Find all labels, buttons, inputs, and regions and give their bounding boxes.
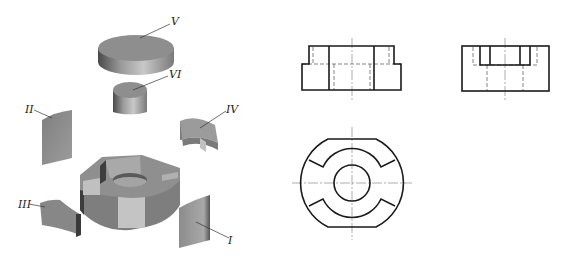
label-part-2: II: [24, 103, 34, 116]
label-part-1: I: [227, 234, 233, 247]
top-view: [292, 127, 412, 240]
isometric-exploded-view: V VI II IV: [17, 15, 239, 248]
front-view: [302, 38, 401, 100]
label-part-5: V: [171, 15, 180, 28]
label-part-3: III: [17, 198, 32, 211]
part-2-panel: II: [24, 103, 72, 165]
label-part-6: VI: [169, 68, 182, 81]
main-body: [80, 155, 180, 230]
part-4-block: IV: [180, 103, 239, 152]
part-6-cylinder: VI: [113, 68, 182, 114]
label-part-4: IV: [225, 103, 239, 116]
part-5-disk: V: [98, 15, 180, 75]
side-view: [462, 38, 549, 100]
part-3-block: III: [17, 198, 81, 237]
drawing-canvas: V VI II IV: [0, 0, 566, 264]
part-1-panel: I: [179, 195, 233, 248]
